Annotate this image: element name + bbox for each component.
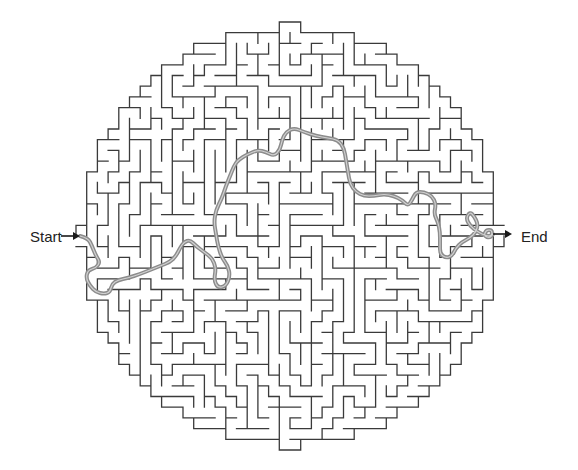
start-label: Start: [30, 229, 62, 244]
solution-path-core: [80, 129, 493, 294]
end-label: End: [521, 229, 548, 244]
arrows: [61, 230, 512, 240]
end-arrow-icon: [493, 230, 512, 238]
maze-board: [0, 0, 578, 470]
start-arrow-icon: [61, 232, 80, 240]
solution-path: [80, 129, 493, 294]
solution-path-outline: [80, 129, 493, 294]
